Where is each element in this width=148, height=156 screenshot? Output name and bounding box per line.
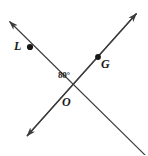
geometry-figure: L G O 80°	[0, 0, 148, 155]
angle-measure-label: 80°	[58, 71, 70, 80]
line-through-g-tail	[27, 14, 137, 137]
line-through-l	[10, 22, 147, 156]
point-label-l: L	[14, 40, 21, 52]
point-label-g: G	[101, 58, 110, 70]
geometry-canvas	[0, 0, 148, 155]
point-l-dot	[27, 44, 33, 50]
point-label-o: O	[62, 96, 71, 108]
